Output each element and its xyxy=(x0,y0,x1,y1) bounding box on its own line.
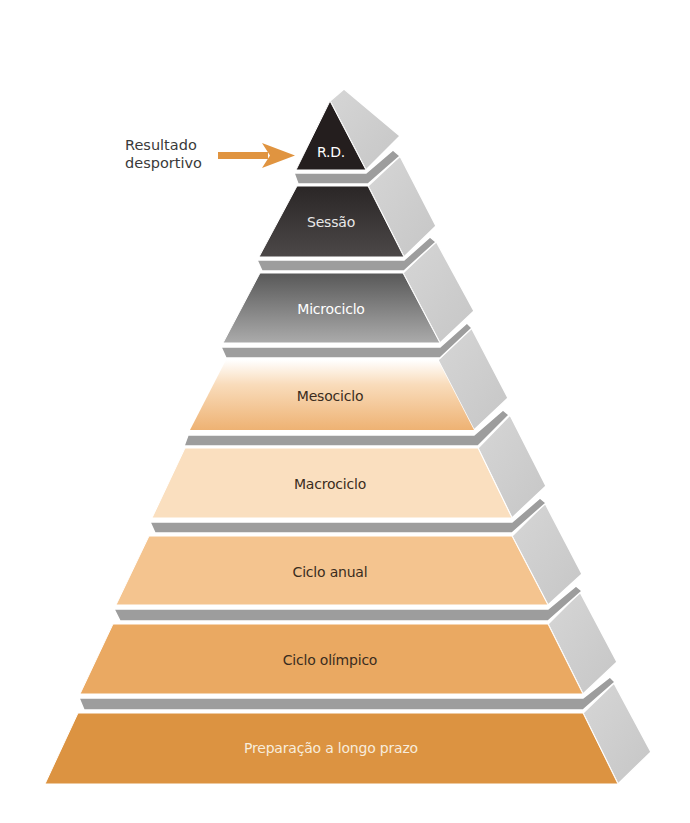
tier-label-ciclo-olimpico: Ciclo olímpico xyxy=(283,652,378,668)
tier-label-ciclo-anual: Ciclo anual xyxy=(293,564,368,580)
tier-label-mesociclo: Mesociclo xyxy=(297,388,364,404)
tier-label-sessao: Sessão xyxy=(307,214,355,230)
callout-line-1: Resultado xyxy=(125,136,202,154)
tier-label-microciclo: Microciclo xyxy=(297,301,364,317)
tier-label-longo-prazo: Preparação a longo prazo xyxy=(244,740,418,756)
callout-line-2: desportivo xyxy=(125,154,202,172)
pyramid-diagram xyxy=(0,0,690,823)
arrow-icon xyxy=(218,143,295,168)
tier-label-rd: R.D. xyxy=(317,144,345,160)
callout-label: Resultado desportivo xyxy=(125,136,202,172)
tier-label-macrociclo: Macrociclo xyxy=(294,476,366,492)
